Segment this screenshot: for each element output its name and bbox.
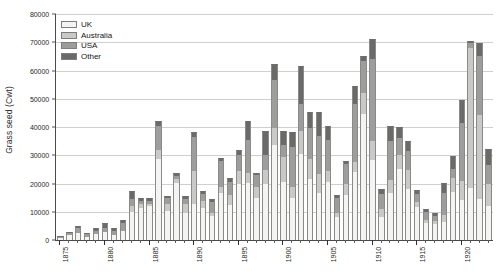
x-axis-tick: [488, 240, 489, 243]
bar-segment-uk: [200, 208, 206, 240]
x-axis-tick-label: 1885: [152, 247, 159, 262]
y-axis-tick-label: 10000: [30, 208, 49, 215]
bar-segment-australia: [378, 209, 384, 217]
bar-segment-australia: [155, 150, 161, 158]
x-axis-tick: [425, 240, 426, 243]
x-axis-tick-label: 1915: [419, 247, 426, 262]
bar-segment-usa: [227, 182, 233, 195]
bar-segment-australia: [200, 201, 206, 209]
bar-segment-australia: [227, 195, 233, 205]
x-axis-tick: [211, 240, 212, 243]
bar-segment-australia: [485, 184, 491, 207]
y-axis-tick-label: 80000: [30, 11, 49, 18]
bar-1890: [191, 132, 197, 240]
bar-segment-australia: [459, 181, 465, 200]
bar-1889: [182, 196, 188, 240]
bar-segment-uk: [253, 198, 259, 240]
x-axis-tick: [238, 240, 239, 245]
bar-segment-uk: [369, 160, 375, 240]
bar-segment-usa: [360, 61, 366, 93]
bar-segment-usa: [441, 193, 447, 216]
bar-segment-uk: [441, 222, 447, 240]
bar-segment-other: [441, 183, 447, 193]
legend-item-uk: UK: [61, 20, 112, 29]
bar-segment-australia: [262, 170, 268, 184]
bar-segment-usa: [289, 147, 295, 187]
bar-1908: [352, 86, 358, 240]
x-axis-tick: [443, 240, 444, 243]
bar-segment-uk: [325, 182, 331, 240]
bar-segment-usa: [280, 145, 286, 157]
bar-1910: [369, 39, 375, 240]
legend-item-other: Other: [61, 52, 112, 61]
bar-1879: [93, 228, 99, 240]
bar-1887: [164, 196, 170, 240]
bar-1905: [325, 126, 331, 240]
x-axis-tick: [274, 240, 275, 243]
x-axis-tick-label: 1895: [241, 247, 248, 262]
bar-segment-uk: [405, 189, 411, 240]
bar-segment-usa: [387, 141, 393, 179]
bar-segment-australia: [325, 171, 331, 182]
bar-segment-uk: [459, 200, 465, 240]
x-axis-tick: [122, 240, 123, 243]
x-axis-tick: [77, 240, 78, 243]
x-axis-tick-label: 1910: [375, 247, 382, 262]
bar-segment-usa: [236, 155, 242, 170]
legend-swatch-uk: [61, 21, 77, 28]
bar-segment-uk: [307, 179, 313, 240]
x-axis-tick-labels: 1875188018851890189519001905191019151920: [55, 247, 492, 274]
bar-segment-uk: [343, 195, 349, 240]
x-axis-tick: [398, 240, 399, 243]
x-axis-tick-label: 1875: [62, 247, 69, 262]
x-axis-tick-label: 1890: [196, 247, 203, 262]
x-axis-tick: [131, 240, 132, 243]
bar-segment-uk: [209, 216, 215, 240]
bar-1896: [245, 121, 251, 240]
bar-1884: [138, 198, 144, 240]
bar-1882: [120, 220, 126, 240]
bar-segment-usa: [423, 212, 429, 220]
x-axis-tick: [104, 240, 105, 245]
bar-segment-usa: [200, 194, 206, 201]
bar-segment-uk: [387, 193, 393, 240]
bar-1900: [280, 131, 286, 240]
bar-segment-uk: [75, 233, 81, 240]
bar-segment-other: [316, 112, 322, 135]
bar-segment-uk: [262, 184, 268, 240]
bar-segment-other: [271, 64, 277, 80]
bar-segment-usa: [459, 123, 465, 181]
bar-segment-uk: [138, 208, 144, 240]
bar-segment-australia: [271, 128, 277, 145]
bar-segment-australia: [236, 171, 242, 184]
bar-1894: [227, 178, 233, 240]
x-axis-tick: [229, 240, 230, 243]
bar-segment-usa: [245, 140, 251, 173]
y-axis-tick-label: 30000: [30, 152, 49, 159]
y-axis-tick-label: 20000: [30, 180, 49, 187]
bar-segment-other: [405, 141, 411, 151]
bar-segment-australia: [405, 170, 411, 189]
bar-segment-usa: [155, 126, 161, 150]
x-axis-tick: [256, 240, 257, 243]
bar-1892: [209, 198, 215, 240]
bar-segment-other: [450, 156, 456, 169]
bar-segment-other: [262, 131, 268, 155]
bar-segment-other: [289, 132, 295, 147]
bar-segment-australia: [182, 204, 188, 212]
bar-segment-usa: [414, 194, 420, 202]
bar-1895: [236, 150, 242, 240]
grass-seed-stacked-bar-chart: Grass seed (Cwt) 01000020000300004000050…: [0, 0, 502, 274]
bar-segment-other: [387, 126, 393, 141]
bar-segment-other: [280, 131, 286, 145]
bar-segment-uk: [316, 193, 322, 240]
legend-label-uk: UK: [81, 20, 92, 29]
x-axis-tick: [354, 240, 355, 243]
bar-1885: [146, 198, 152, 240]
bar-segment-uk: [289, 198, 295, 240]
x-axis-tick: [452, 240, 453, 243]
bar-segment-uk: [245, 183, 251, 240]
bar-segment-australia: [352, 162, 358, 172]
bar-1899: [271, 64, 277, 240]
bar-segment-australia: [476, 115, 482, 199]
